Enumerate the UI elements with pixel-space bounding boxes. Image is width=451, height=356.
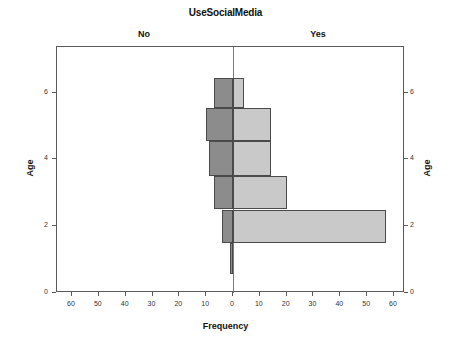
x-tick <box>152 292 153 296</box>
x-tick-label: 10 <box>195 300 215 307</box>
bar-yes-age-6 <box>233 78 244 108</box>
y-tick-label-right: 4 <box>410 154 422 161</box>
x-tick <box>178 292 179 296</box>
y-tick-label-right: 2 <box>410 221 422 228</box>
bar-no-age-6 <box>214 78 233 108</box>
x-tick <box>286 292 287 296</box>
x-tick <box>205 292 206 296</box>
x-tick <box>98 292 99 296</box>
panel-label-no: No <box>56 29 232 39</box>
y-tick-left <box>52 292 56 293</box>
x-tick-label: 0 <box>222 300 242 307</box>
bar-yes-age-3 <box>233 176 287 209</box>
x-tick-label: 30 <box>302 300 322 307</box>
y-tick-left <box>52 92 56 93</box>
x-tick <box>125 292 126 296</box>
x-tick-label: 20 <box>276 300 296 307</box>
x-tick-label: 60 <box>61 300 81 307</box>
x-tick <box>71 292 72 296</box>
x-tick <box>393 292 394 296</box>
x-tick <box>366 292 367 296</box>
chart-figure: UseSocialMedia No Yes 605040302010010203… <box>0 0 451 356</box>
x-tick <box>339 292 340 296</box>
x-tick-label: 50 <box>356 300 376 307</box>
x-tick-label: 10 <box>249 300 269 307</box>
y-tick-label-right: 0 <box>410 288 422 295</box>
bar-yes-age-5 <box>233 108 271 141</box>
y-tick-label-right: 6 <box>410 88 422 95</box>
y-axis-title-right: Age <box>422 155 432 181</box>
panel-label-yes: Yes <box>232 29 404 39</box>
y-tick-label-left: 4 <box>34 154 48 161</box>
x-tick-label: 20 <box>168 300 188 307</box>
y-tick-left <box>52 158 56 159</box>
x-tick-label: 40 <box>115 300 135 307</box>
x-tick <box>259 292 260 296</box>
x-tick <box>232 292 233 296</box>
y-tick-right <box>404 225 408 226</box>
y-tick-left <box>52 225 56 226</box>
bar-no-age-2 <box>222 210 233 243</box>
x-tick <box>312 292 313 296</box>
bar-yes-age-4 <box>233 141 271 176</box>
y-axis-title-left: Age <box>25 155 35 181</box>
bar-yes-age-2 <box>233 210 386 243</box>
x-tick-label: 30 <box>142 300 162 307</box>
y-tick-label-left: 6 <box>34 88 48 95</box>
y-tick-right <box>404 158 408 159</box>
x-tick-label: 40 <box>329 300 349 307</box>
bar-no-age-5 <box>206 108 233 141</box>
plot-area <box>56 46 404 292</box>
x-tick-label: 50 <box>88 300 108 307</box>
bar-no-age-4 <box>209 141 233 176</box>
bar-no-age-1 <box>230 243 233 274</box>
y-tick-label-left: 0 <box>34 288 48 295</box>
x-tick-label: 60 <box>383 300 403 307</box>
y-tick-right <box>404 92 408 93</box>
x-axis-title: Frequency <box>0 321 451 331</box>
y-tick-label-left: 2 <box>34 221 48 228</box>
y-tick-right <box>404 292 408 293</box>
chart-title: UseSocialMedia <box>0 7 451 18</box>
bar-no-age-3 <box>214 176 233 209</box>
